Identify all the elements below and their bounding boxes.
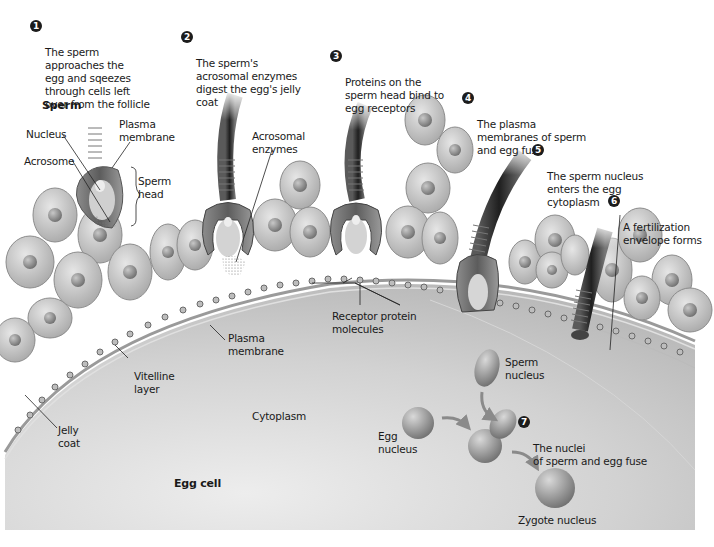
step-text: Proteins on the sperm head bind to egg r… — [330, 76, 444, 115]
step-number-badge: 6 — [608, 195, 620, 207]
label-egg-cell: Egg cell — [174, 478, 221, 491]
label-vitelline-layer: Vitelline layer — [134, 370, 175, 395]
step-text: A fertilization envelope forms — [608, 221, 702, 247]
label-nucleus: Nucleus — [26, 128, 66, 141]
step-6-callout: 6 A fertilization envelope forms — [608, 195, 702, 260]
step-number-badge: 4 — [462, 92, 474, 104]
step-2-callout: 2 The sperm's acrosomal enzymes digest t… — [181, 31, 301, 122]
label-sperm-nucleus: Sperm nucleus — [505, 356, 544, 381]
step-number-badge: 1 — [30, 20, 42, 32]
label-acrosomal-enzymes: Acrosomal enzymes — [252, 130, 305, 155]
step-number-badge: 7 — [518, 416, 530, 428]
label-receptor-protein-molecules: Receptor protein molecules — [332, 310, 417, 335]
label-zygote-nucleus: Zygote nucleus — [518, 514, 596, 527]
label-egg-nucleus: Egg nucleus — [378, 430, 417, 455]
label-sperm: Sperm — [42, 100, 81, 113]
step-number-badge: 3 — [330, 50, 342, 62]
step-text: The sperm's acrosomal enzymes digest the… — [181, 57, 301, 109]
label-jelly-coat: Jelly coat — [58, 424, 80, 449]
step-number-badge: 2 — [181, 31, 193, 43]
label-sperm-head: Sperm head — [138, 175, 171, 200]
step-number-badge: 5 — [532, 144, 544, 156]
label-cytoplasm: Cytoplasm — [252, 410, 306, 423]
label-egg-plasma-membrane: Plasma membrane — [228, 332, 284, 357]
step-text: The nuclei of sperm and egg fuse — [518, 442, 647, 468]
label-sperm-plasma-membrane: Plasma membrane — [119, 118, 175, 143]
fertilization-diagram: 1 The sperm approaches the egg and sqeez… — [0, 0, 714, 547]
step-3-callout: 3 Proteins on the sperm head bind to egg… — [330, 50, 444, 128]
step-7-callout: 7 The nuclei of sperm and egg fuse — [518, 416, 647, 481]
label-acrosome: Acrosome — [24, 155, 74, 168]
